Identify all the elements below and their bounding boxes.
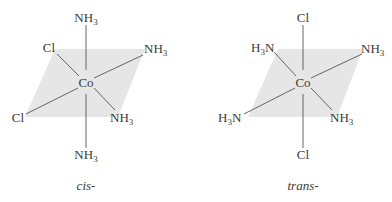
ligand-lower-left: H3N xyxy=(218,110,242,127)
ligand-lower-left: Cl xyxy=(12,110,25,125)
ligand-upper-right: NH3 xyxy=(361,41,385,58)
caption-cis: cis- xyxy=(77,178,96,193)
ligand-top: Cl xyxy=(297,10,310,25)
ligand-upper-right: NH3 xyxy=(144,41,168,58)
ligand-bottom: NH3 xyxy=(74,147,98,164)
ligand-bottom: Cl xyxy=(297,147,310,162)
central-atom: Co xyxy=(78,75,93,90)
ligand-lower-right: NH3 xyxy=(330,110,354,127)
caption-trans: trans- xyxy=(287,178,318,193)
ligand-top: NH3 xyxy=(74,10,98,27)
central-atom: Co xyxy=(295,75,310,90)
trans-isomer: Cl Cl H3N H3N NH3 NH3 Co trans- xyxy=(218,10,385,193)
ligand-lower-right: NH3 xyxy=(110,110,134,127)
octahedral-isomers-diagram: NH3 NH3 Cl Cl NH3 NH3 Co cis- Cl Cl H3N … xyxy=(0,0,392,202)
cis-isomer: NH3 NH3 Cl Cl NH3 NH3 Co cis- xyxy=(12,10,168,193)
ligand-upper-left: H3N xyxy=(251,40,275,57)
ligand-upper-left: Cl xyxy=(43,40,56,55)
